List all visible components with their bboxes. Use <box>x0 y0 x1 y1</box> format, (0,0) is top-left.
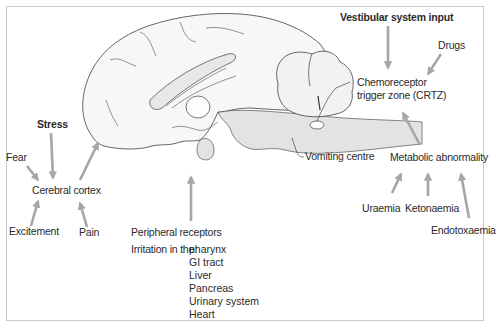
label-fear: Fear <box>6 151 27 164</box>
label-stress: Stress <box>37 118 68 131</box>
label-vestibular: Vestibular system input <box>340 11 453 24</box>
arrow-pain <box>80 203 87 227</box>
irritation-site: Pancreas <box>189 282 259 295</box>
label-metabolic-abnormality: Metabolic abnormality <box>390 151 488 164</box>
arrow-excitement <box>31 201 38 226</box>
irritation-site: Liver <box>189 269 259 282</box>
irritation-site: GI tract <box>189 256 259 269</box>
label-ketonaemia: Ketonaemia <box>405 202 459 215</box>
label-crtz-line1: Chemoreceptor <box>357 76 427 89</box>
arrow-stress <box>51 133 53 178</box>
cerebellum-outline <box>277 51 354 117</box>
label-vomiting-centre: Vomiting centre <box>305 150 374 163</box>
label-drugs: Drugs <box>438 39 465 52</box>
label-endotoxaemia: Endotoxaemia <box>431 224 496 237</box>
arrow-drugs <box>428 54 441 74</box>
label-excitement: Excitement <box>9 225 59 238</box>
arrow-cortex-to-brain <box>80 143 98 180</box>
label-peripheral-receptors: Peripheral receptors <box>131 226 222 239</box>
label-crtz-line2: trigger zone (CRTZ) <box>357 89 446 102</box>
thalamus <box>186 96 210 118</box>
irritation-site: pharynx <box>189 243 259 256</box>
irritation-site: Heart <box>189 308 259 321</box>
label-cerebral-cortex: Cerebral cortex <box>32 184 101 197</box>
label-uraemia: Uraemia <box>362 202 400 215</box>
irritation-site: Urinary system <box>189 295 259 308</box>
irritation-sites-list: pharynx GI tract Liver Pancreas Urinary … <box>189 243 259 321</box>
arrow-endotoxaemia <box>461 174 469 218</box>
arrow-fear <box>27 166 38 180</box>
arrow-uraemia <box>392 174 401 193</box>
label-pain: Pain <box>79 226 99 239</box>
crtz-oval <box>310 121 324 129</box>
label-irritation-prefix: Irritation in the: <box>131 243 197 256</box>
pituitary-region <box>197 138 214 159</box>
